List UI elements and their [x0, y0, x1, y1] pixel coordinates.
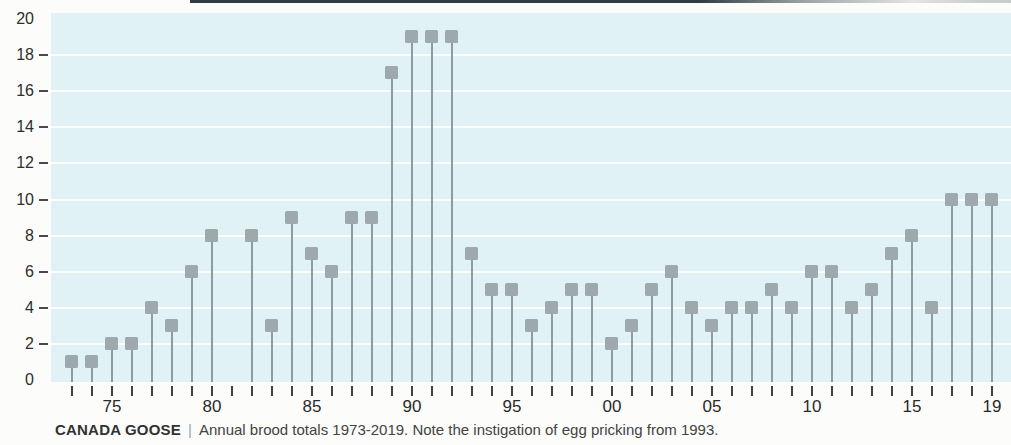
x-axis-tick-1999	[591, 386, 593, 396]
x-axis-tick-1973	[71, 386, 73, 396]
x-axis-tick-1980	[211, 386, 213, 396]
x-axis-label-80: 80	[195, 397, 229, 416]
x-axis-tick-1993	[471, 386, 473, 396]
caption-separator-icon: |	[188, 421, 192, 438]
x-axis-tick-1990	[411, 386, 413, 396]
x-axis-tick-1975	[111, 386, 113, 396]
x-axis-tick-2003	[671, 386, 673, 396]
x-axis-tick-2001	[631, 386, 633, 396]
caption-species: CANADA GOOSE	[55, 421, 181, 438]
x-axis-tick-2017	[951, 386, 953, 396]
x-axis-tick-1974	[91, 386, 93, 396]
x-axis-tick-2005	[711, 386, 713, 396]
x-axis-tick-1996	[531, 386, 533, 396]
x-axis-tick-1981	[231, 386, 233, 396]
x-axis: 75808590950005101519	[0, 0, 1011, 445]
x-axis-tick-1976	[131, 386, 133, 396]
x-axis-label-95: 95	[495, 397, 529, 416]
x-axis-label-75: 75	[95, 397, 129, 416]
chart-caption: CANADA GOOSE|Annual brood totals 1973-20…	[55, 421, 718, 438]
x-axis-tick-1989	[391, 386, 393, 396]
x-axis-tick-1982	[251, 386, 253, 396]
x-axis-label-15: 15	[895, 397, 929, 416]
scanned-chart-page: { "chart_data": { "type": "scatter", "va…	[0, 0, 1011, 445]
x-axis-tick-2002	[651, 386, 653, 396]
x-axis-tick-1991	[431, 386, 433, 396]
x-axis-tick-1984	[291, 386, 293, 396]
x-axis-tick-2016	[931, 386, 933, 396]
x-axis-label-90: 90	[395, 397, 429, 416]
x-axis-tick-1985	[311, 386, 313, 396]
x-axis-tick-1997	[551, 386, 553, 396]
x-axis-tick-2000	[611, 386, 613, 396]
x-axis-tick-1979	[191, 386, 193, 396]
x-axis-tick-1995	[511, 386, 513, 396]
x-axis-tick-2014	[891, 386, 893, 396]
x-axis-tick-1992	[451, 386, 453, 396]
x-axis-tick-1998	[571, 386, 573, 396]
x-axis-tick-2010	[811, 386, 813, 396]
caption-text: Annual brood totals 1973-2019. Note the …	[199, 421, 719, 438]
x-axis-tick-1977	[151, 386, 153, 396]
x-axis-tick-1994	[491, 386, 493, 396]
x-axis-label-85: 85	[295, 397, 329, 416]
x-axis-tick-2018	[971, 386, 973, 396]
x-axis-tick-2004	[691, 386, 693, 396]
x-axis-label-05: 05	[695, 397, 729, 416]
x-axis-tick-2009	[791, 386, 793, 396]
x-axis-label-10: 10	[795, 397, 829, 416]
x-axis-tick-2006	[731, 386, 733, 396]
x-axis-tick-1988	[371, 386, 373, 396]
x-axis-tick-2012	[851, 386, 853, 396]
x-axis-tick-1986	[331, 386, 333, 396]
x-axis-label-00: 00	[595, 397, 629, 416]
x-axis-tick-2007	[751, 386, 753, 396]
x-axis-tick-1983	[271, 386, 273, 396]
x-axis-tick-2015	[911, 386, 913, 396]
x-axis-tick-1978	[171, 386, 173, 396]
x-axis-tick-1987	[351, 386, 353, 396]
x-axis-tick-2011	[831, 386, 833, 396]
x-axis-tick-2008	[771, 386, 773, 396]
x-axis-tick-2019	[991, 386, 993, 396]
x-axis-label-19: 19	[975, 397, 1009, 416]
x-axis-tick-2013	[871, 386, 873, 396]
chart-figure: 02468101214161820 75808590950005101519 C…	[0, 0, 1011, 445]
